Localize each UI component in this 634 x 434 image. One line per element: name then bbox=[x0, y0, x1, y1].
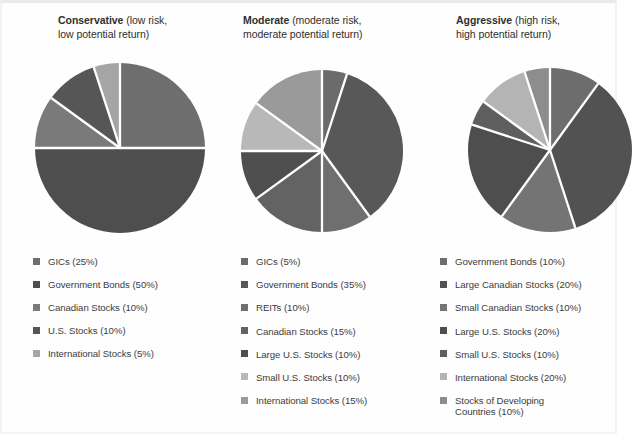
legend-item: Large U.S. Stocks (20%) bbox=[440, 326, 582, 337]
legend-label: Large U.S. Stocks (10%) bbox=[256, 349, 360, 360]
legend-label: Government Bonds (50%) bbox=[48, 279, 158, 290]
legend-swatch-small-us-stocks bbox=[241, 373, 248, 380]
legend-label: International Stocks (15%) bbox=[256, 395, 367, 406]
legend-swatch-large-canadian-stocks bbox=[440, 281, 447, 288]
pie-chart-conservative bbox=[33, 61, 207, 235]
legend-swatch-canadian-stocks bbox=[241, 327, 248, 334]
pie-slice-government-bonds bbox=[35, 148, 205, 233]
portfolio-column-aggressive: Aggressive (high risk, high potential re… bbox=[435, 0, 617, 434]
column-title-conservative: Conservative (low risk, low potential re… bbox=[58, 14, 218, 41]
legend-label: GICs (5%) bbox=[256, 256, 300, 267]
column-title-line2: low potential return) bbox=[58, 28, 149, 40]
legend-swatch-international-stocks bbox=[241, 397, 248, 404]
pie-svg-moderate bbox=[239, 68, 405, 234]
legend-item: U.S. Stocks (10%) bbox=[33, 325, 158, 336]
legend-label: Large Canadian Stocks (20%) bbox=[455, 279, 582, 290]
column-title-line2: high potential return) bbox=[456, 28, 551, 40]
legend-label: Small U.S. Stocks (10%) bbox=[455, 349, 559, 360]
legend-label: Small U.S. Stocks (10%) bbox=[256, 372, 360, 383]
column-title-strong: Conservative bbox=[58, 14, 123, 26]
portfolio-column-moderate: Moderate (moderate risk, moderate potent… bbox=[229, 0, 435, 434]
legend-label: U.S. Stocks (10%) bbox=[48, 325, 126, 336]
legend-item: GICs (5%) bbox=[241, 256, 367, 267]
pie-slice-gics bbox=[120, 63, 205, 148]
legend-conservative: GICs (25%) Government Bonds (50%) Canadi… bbox=[33, 256, 158, 371]
legend-swatch-large-us-stocks bbox=[241, 350, 248, 357]
pie-chart-moderate bbox=[239, 68, 405, 234]
column-title-rest: (moderate risk, bbox=[289, 14, 361, 26]
legend-swatch-government-bonds bbox=[241, 281, 248, 288]
legend-label: Canadian Stocks (10%) bbox=[48, 302, 148, 313]
legend-item: Canadian Stocks (10%) bbox=[33, 302, 158, 313]
legend-moderate: GICs (5%) Government Bonds (35%) REITs (… bbox=[241, 256, 367, 418]
legend-item: Government Bonds (50%) bbox=[33, 279, 158, 290]
legend-item: International Stocks (15%) bbox=[241, 395, 367, 406]
legend-label: International Stocks (20%) bbox=[455, 372, 566, 383]
legend-item: Small Canadian Stocks (10%) bbox=[440, 302, 582, 313]
legend-label: Government Bonds (10%) bbox=[455, 256, 565, 267]
legend-label: International Stocks (5%) bbox=[48, 348, 154, 359]
legend-item: Stocks of Developing Countries (10%) bbox=[440, 395, 582, 417]
pie-svg-aggressive bbox=[466, 66, 634, 234]
legend-swatch-government-bonds bbox=[33, 281, 40, 288]
legend-swatch-small-us-stocks bbox=[440, 350, 447, 357]
portfolio-column-conservative: Conservative (low risk, low potential re… bbox=[0, 0, 229, 434]
legend-label: Large U.S. Stocks (20%) bbox=[455, 326, 559, 337]
legend-swatch-gics bbox=[241, 258, 248, 265]
legend-swatch-reits bbox=[241, 304, 248, 311]
legend-aggressive: Government Bonds (10%) Large Canadian St… bbox=[440, 256, 582, 429]
column-title-rest: (high risk, bbox=[512, 14, 560, 26]
legend-swatch-government-bonds bbox=[440, 258, 447, 265]
legend-label: Canadian Stocks (15%) bbox=[256, 326, 356, 337]
legend-label: Small Canadian Stocks (10%) bbox=[455, 302, 581, 313]
legend-item: International Stocks (5%) bbox=[33, 348, 158, 359]
legend-swatch-international-stocks bbox=[440, 373, 447, 380]
legend-item: Government Bonds (35%) bbox=[241, 279, 367, 290]
column-title-aggressive: Aggressive (high risk, high potential re… bbox=[456, 14, 616, 41]
legend-item: GICs (25%) bbox=[33, 256, 158, 267]
legend-item: Government Bonds (10%) bbox=[440, 256, 582, 267]
legend-item: Canadian Stocks (15%) bbox=[241, 326, 367, 337]
legend-label: REITs (10%) bbox=[256, 302, 309, 313]
legend-item: Small U.S. Stocks (10%) bbox=[241, 372, 367, 383]
legend-item: Small U.S. Stocks (10%) bbox=[440, 349, 582, 360]
pie-chart-aggressive bbox=[466, 66, 634, 234]
legend-swatch-canadian-stocks bbox=[33, 304, 40, 311]
legend-swatch-small-canadian-stocks bbox=[440, 304, 447, 311]
legend-label: Stocks of Developing Countries (10%) bbox=[455, 395, 544, 417]
legend-swatch-gics bbox=[33, 258, 40, 265]
legend-swatch-us-stocks bbox=[33, 327, 40, 334]
legend-swatch-developing-countries bbox=[440, 397, 447, 404]
column-title-line2: moderate potential return) bbox=[243, 28, 363, 40]
legend-item: International Stocks (20%) bbox=[440, 372, 582, 383]
legend-item: REITs (10%) bbox=[241, 302, 367, 313]
column-title-moderate: Moderate (moderate risk, moderate potent… bbox=[243, 14, 413, 41]
legend-swatch-large-us-stocks bbox=[440, 327, 447, 334]
column-title-rest: (low risk, bbox=[123, 14, 167, 26]
legend-item: Large U.S. Stocks (10%) bbox=[241, 349, 367, 360]
legend-label: GICs (25%) bbox=[48, 256, 98, 267]
column-title-strong: Moderate bbox=[243, 14, 289, 26]
legend-item: Large Canadian Stocks (20%) bbox=[440, 279, 582, 290]
column-title-strong: Aggressive bbox=[456, 14, 512, 26]
pie-svg-conservative bbox=[33, 61, 207, 235]
legend-label: Government Bonds (35%) bbox=[256, 279, 366, 290]
legend-swatch-international-stocks bbox=[33, 350, 40, 357]
